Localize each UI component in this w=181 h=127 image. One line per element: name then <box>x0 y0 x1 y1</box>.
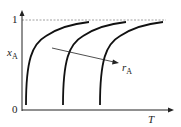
y-axis-label: xA <box>7 47 18 61</box>
ra-label-sub: A <box>126 67 132 76</box>
x-axis-arrowhead <box>168 108 174 113</box>
ra-label: rA <box>122 62 132 76</box>
curve-1 <box>26 22 89 105</box>
y-axis-label-sub: A <box>12 52 18 61</box>
ra-arrowhead <box>112 60 119 65</box>
y-axis-arrowhead <box>20 10 25 16</box>
chart-canvas <box>0 0 181 127</box>
y-tick-0: 0 <box>12 104 18 115</box>
x-axis-label: T <box>148 114 154 125</box>
y-tick-1: 1 <box>12 14 18 25</box>
